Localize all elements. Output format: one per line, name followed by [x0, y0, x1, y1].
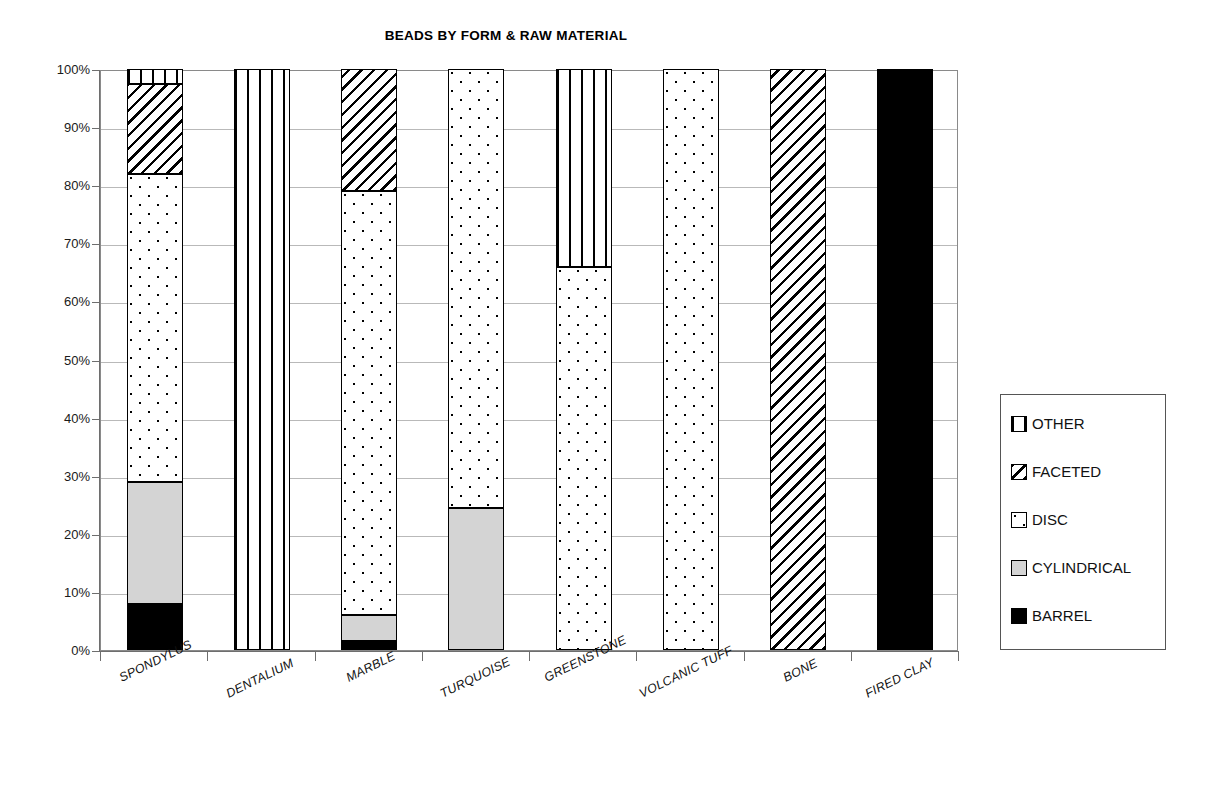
bar-segment-disc[interactable]	[663, 69, 719, 650]
bar-segment-other[interactable]	[234, 69, 290, 650]
x-axis-tick	[422, 652, 423, 661]
x-axis-category-label: TURQUOISE	[438, 655, 513, 701]
legend-swatch-cylindrical-icon	[1011, 560, 1027, 576]
chart-title: BEADS BY FORM & RAW MATERIAL	[0, 28, 1012, 43]
legend-label: CYLINDRICAL	[1032, 559, 1131, 576]
bar-segment-barrel[interactable]	[341, 641, 397, 650]
bar-fired-clay[interactable]	[877, 69, 933, 650]
y-axis-tick-label: 0%	[38, 644, 90, 657]
bar-segment-disc[interactable]	[448, 69, 504, 508]
bar-segment-cylindrical[interactable]	[341, 615, 397, 641]
gridline	[101, 420, 957, 421]
legend-label: DISC	[1032, 511, 1068, 528]
x-axis-tick	[100, 652, 101, 661]
bar-segment-disc[interactable]	[556, 267, 612, 650]
legend-swatch-disc-icon	[1011, 512, 1027, 528]
x-axis-tick	[529, 652, 530, 661]
gridline	[101, 594, 957, 595]
y-axis-tick-label: 10%	[38, 586, 90, 599]
gridline	[101, 303, 957, 304]
y-axis-tick-label: 80%	[38, 179, 90, 192]
legend-label: OTHER	[1032, 415, 1085, 432]
legend: OTHERFACETEDDISCCYLINDRICALBARREL	[1000, 394, 1166, 650]
y-axis-tick-label: 100%	[38, 63, 90, 76]
bar-volcanic-tuff[interactable]	[663, 69, 719, 650]
legend-item-cylindrical[interactable]: CYLINDRICAL	[1011, 559, 1131, 576]
bar-dentalium[interactable]	[234, 69, 290, 650]
y-axis-tick-label: 30%	[38, 470, 90, 483]
y-axis-tick	[92, 302, 100, 303]
y-axis-tick-label: 50%	[38, 354, 90, 367]
legend-label: FACETED	[1032, 463, 1101, 480]
gridline	[101, 129, 957, 130]
bar-bone[interactable]	[770, 69, 826, 650]
plot-area	[100, 70, 958, 651]
legend-item-faceted[interactable]: FACETED	[1011, 463, 1101, 480]
legend-swatch-faceted-icon	[1011, 464, 1027, 480]
x-axis-tick	[636, 652, 637, 661]
gridline	[101, 478, 957, 479]
legend-label: BARREL	[1032, 607, 1092, 624]
y-axis-tick-label: 90%	[38, 121, 90, 134]
x-axis-tick	[851, 652, 852, 661]
bar-segment-other[interactable]	[556, 69, 612, 267]
y-axis-tick-label: 20%	[38, 528, 90, 541]
x-axis-tick	[315, 652, 316, 661]
bar-segment-cylindrical[interactable]	[448, 508, 504, 650]
legend-item-barrel[interactable]: BARREL	[1011, 607, 1092, 624]
x-axis-tick	[207, 652, 208, 661]
y-axis-tick	[92, 535, 100, 536]
legend-item-other[interactable]: OTHER	[1011, 415, 1085, 432]
chart-container: BEADS BY FORM & RAW MATERIAL 0%10%20%30%…	[0, 0, 1207, 788]
gridline	[101, 245, 957, 246]
x-axis-category-label: BONE	[781, 656, 820, 684]
y-axis-tick	[92, 70, 100, 71]
y-axis-tick-label: 40%	[38, 412, 90, 425]
legend-swatch-other-icon	[1011, 416, 1027, 432]
bar-segment-faceted[interactable]	[127, 84, 183, 174]
bar-segment-barrel[interactable]	[877, 69, 933, 650]
y-axis-tick	[92, 186, 100, 187]
bar-segment-faceted[interactable]	[341, 69, 397, 191]
y-axis-tick	[92, 244, 100, 245]
bar-segment-other[interactable]	[127, 69, 183, 84]
gridline	[101, 187, 957, 188]
bar-marble[interactable]	[341, 69, 397, 650]
x-axis-category-label: MARBLE	[344, 649, 397, 685]
y-axis-tick	[92, 419, 100, 420]
bar-segment-faceted[interactable]	[770, 69, 826, 650]
gridline	[101, 536, 957, 537]
y-axis-tick-label: 60%	[38, 295, 90, 308]
x-axis-category-label: DENTALIUM	[224, 656, 296, 701]
legend-item-disc[interactable]: DISC	[1011, 511, 1068, 528]
gridline	[101, 362, 957, 363]
legend-swatch-barrel-icon	[1011, 608, 1027, 624]
y-axis-tick	[92, 593, 100, 594]
y-axis-tick	[92, 128, 100, 129]
bar-segment-disc[interactable]	[127, 174, 183, 482]
x-axis-tick	[958, 652, 959, 661]
x-axis-tick	[744, 652, 745, 661]
bar-spondylus[interactable]	[127, 69, 183, 650]
y-axis-tick	[92, 477, 100, 478]
bar-turquoise[interactable]	[448, 69, 504, 650]
y-axis-tick	[92, 651, 100, 652]
bar-segment-cylindrical[interactable]	[127, 482, 183, 604]
bar-greenstone[interactable]	[556, 69, 612, 650]
y-axis-tick	[92, 361, 100, 362]
bar-segment-disc[interactable]	[341, 191, 397, 615]
x-axis-category-label: FIRED CLAY	[863, 655, 936, 700]
y-axis-tick-label: 70%	[38, 237, 90, 250]
